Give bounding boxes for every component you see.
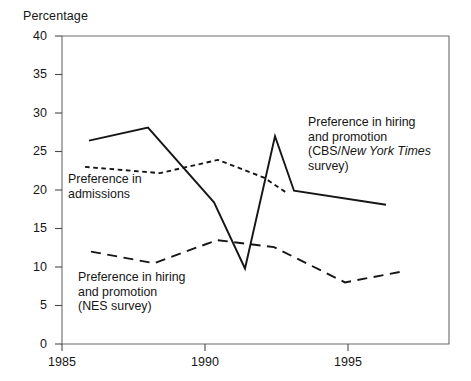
annotation-admissions-line-2: admissions (68, 187, 142, 202)
y-tick-label-0: 0 (17, 337, 47, 351)
y-tick-label-30: 30 (17, 106, 47, 120)
annotation-cbs-line-3-italic: New York Times (341, 144, 431, 158)
annotation-cbs-line-3-prefix: (CBS/ (308, 144, 341, 158)
annotation-admissions-line-1: Preference in (68, 172, 142, 187)
annotation-nes-line-2: and promotion (78, 285, 185, 300)
chart-figure: Percentage 40 35 30 25 20 15 10 5 0 1985… (0, 0, 471, 381)
y-tick-label-40: 40 (17, 29, 47, 43)
y-tick-label-15: 15 (17, 221, 47, 235)
x-axis-ticks (62, 344, 348, 351)
annotation-nes-line-1: Preference in hiring (78, 270, 185, 285)
annotation-nes-line-3: (NES survey) (78, 299, 185, 314)
y-tick-label-20: 20 (17, 183, 47, 197)
annotation-admissions: Preference in admissions (68, 172, 142, 201)
y-tick-label-25: 25 (17, 144, 47, 158)
annotation-nes: Preference in hiring and promotion (NES … (78, 270, 185, 314)
y-axis-title: Percentage (23, 9, 88, 23)
y-tick-label-35: 35 (17, 67, 47, 81)
x-tick-label-1990: 1990 (182, 355, 228, 369)
annotation-cbs-line-2: and promotion (308, 130, 431, 145)
annotation-cbs-line-3: (CBS/New York Times (308, 144, 431, 159)
y-axis-ticks (55, 36, 62, 344)
annotation-cbs-line-4: survey) (308, 159, 431, 174)
y-tick-label-10: 10 (17, 260, 47, 274)
x-tick-label-1985: 1985 (39, 355, 85, 369)
x-tick-label-1995: 1995 (325, 355, 371, 369)
y-tick-label-5: 5 (17, 298, 47, 312)
annotation-cbs-nyt: Preference in hiring and promotion (CBS/… (308, 115, 431, 173)
annotation-cbs-line-1: Preference in hiring (308, 115, 431, 130)
